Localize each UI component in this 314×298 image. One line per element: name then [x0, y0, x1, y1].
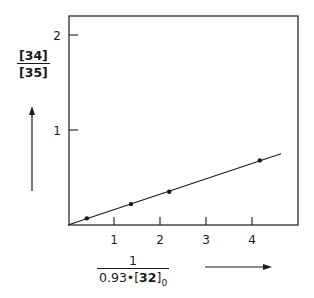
data-point [167, 190, 171, 194]
x-label-numerator: 1 [97, 253, 169, 268]
y-tick-label: 2 [53, 29, 61, 43]
regression-line [68, 154, 281, 225]
x-tick-label: 4 [248, 233, 256, 247]
x-axis-label: 1 0.93•[32]0 [97, 253, 169, 287]
data-point [258, 158, 262, 162]
plot-border [69, 16, 298, 225]
x-tick-label: 2 [156, 233, 164, 247]
y-label-numerator: [34] [19, 48, 48, 63]
y-axis-label: [34] [35] [17, 48, 50, 80]
x-tick-label: 3 [202, 233, 210, 247]
y-tick-label: 1 [53, 124, 61, 138]
y-axis-arrow-icon [29, 106, 35, 191]
data-point [85, 216, 89, 220]
axis-ticks: 123412 [53, 29, 255, 248]
y-label-denominator: [35] [19, 65, 48, 80]
data-point [129, 202, 133, 206]
plot-frame [69, 16, 298, 225]
x-axis-arrow-icon [205, 264, 272, 270]
x-label-denominator: 0.93•[32]0 [97, 268, 169, 287]
fit-line [68, 154, 281, 225]
x-tick-label: 1 [110, 233, 118, 247]
